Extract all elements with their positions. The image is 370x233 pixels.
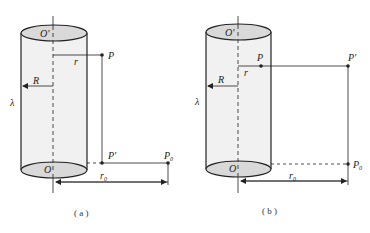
label-r: r <box>74 56 78 67</box>
caption-a: ( a ) <box>74 208 89 218</box>
label-R: R <box>32 75 39 86</box>
cylinder-top-ellipse <box>21 25 87 41</box>
label-p0: P0 <box>352 159 362 171</box>
cylinder-top-ellipse <box>206 24 271 40</box>
panel-a: O' O R λ r P P' P0 r0 ( a ) <box>9 16 173 218</box>
label-r: r <box>244 67 248 78</box>
label-o-prime: O' <box>225 27 235 38</box>
label-lambda: λ <box>9 97 15 108</box>
panel-b: O' O R λ r P P' P0 r0 ( b ) <box>194 16 362 216</box>
label-r0: r0 <box>289 170 296 182</box>
cylinder-bottom-ellipse <box>206 161 271 177</box>
label-R: R <box>217 74 224 85</box>
label-p: P <box>107 50 114 61</box>
point-p <box>259 64 263 68</box>
label-p0: P0 <box>163 150 173 162</box>
label-lambda: λ <box>194 96 200 107</box>
label-r0: r0 <box>100 170 107 182</box>
label-o: O <box>44 164 51 175</box>
figure-canvas: O' O R λ r P P' P0 r0 ( a ) <box>0 0 370 233</box>
cylinder-bottom-ellipse <box>21 162 87 178</box>
label-p-prime: P' <box>347 52 357 63</box>
label-o: O <box>229 163 236 174</box>
label-o-prime: O' <box>40 28 50 39</box>
label-p-prime: P' <box>107 150 117 161</box>
label-p: P <box>256 52 263 63</box>
point-p0 <box>346 162 350 166</box>
cylinder-body <box>21 33 87 170</box>
caption-b: ( b ) <box>262 206 277 216</box>
